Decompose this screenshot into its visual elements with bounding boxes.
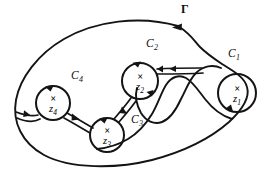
pole-marker-z4: × z4 bbox=[43, 94, 63, 115]
cut-c2-to-c1-lower bbox=[157, 73, 203, 74]
arrowhead-cut-c2-c1-a bbox=[157, 66, 163, 73]
arrowhead-c4-top bbox=[45, 86, 54, 92]
pole-marker-z1: × z1 bbox=[227, 84, 247, 105]
pole-label-z1: z1 bbox=[227, 94, 247, 105]
cut-c4-to-c3-lower bbox=[64, 118, 90, 133]
inner-notch-lower-path bbox=[97, 76, 232, 149]
label-contour-c2: C2 bbox=[146, 38, 158, 50]
pole-label-z2: z2 bbox=[130, 82, 150, 93]
contour-diagram-figure: Γ C1 C2 C3 C4 × z1 × z2 × z3 × z4 bbox=[0, 0, 273, 174]
cut-c4-to-c3-upper bbox=[67, 113, 93, 128]
arrowhead-cut-c2-c1-b bbox=[170, 66, 177, 73]
cut-outer-to-c4-lower bbox=[17, 118, 40, 122]
label-gamma: Γ bbox=[181, 3, 189, 15]
arrowhead-cut-c4-c3 bbox=[72, 114, 81, 121]
arrowhead-c3-top bbox=[99, 118, 108, 124]
label-contour-c4: C4 bbox=[71, 70, 83, 82]
pole-marker-z3: × z3 bbox=[97, 126, 117, 147]
pole-marker-z2: × z2 bbox=[130, 72, 150, 93]
pole-label-z3: z3 bbox=[97, 136, 117, 147]
label-contour-c1: C1 bbox=[228, 48, 240, 60]
cut-c2-to-c1-upper bbox=[157, 68, 202, 69]
pole-label-z4: z4 bbox=[43, 104, 63, 115]
label-contour-c3: C3 bbox=[131, 114, 143, 126]
